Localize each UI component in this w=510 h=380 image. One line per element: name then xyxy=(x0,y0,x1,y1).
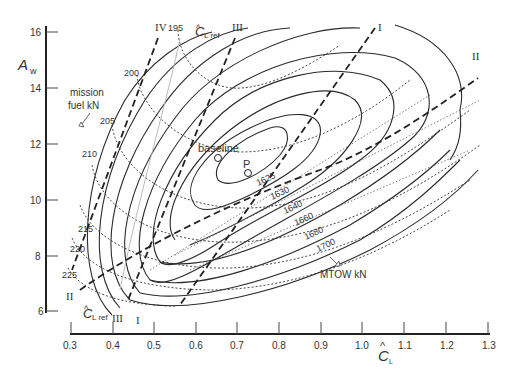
p-label: P xyxy=(243,158,250,170)
y-axis-label: A xyxy=(17,56,28,73)
mtow-1640: 1640 xyxy=(282,198,304,216)
fuel-215: 215 xyxy=(78,224,93,234)
x-tick-0.6: 0.6 xyxy=(189,340,203,351)
mtow-1700: 1700 xyxy=(315,236,337,254)
x-axis-label-sub: L xyxy=(389,358,393,365)
x-axis: 0.3 0.4 0.5 0.6 0.7 0.8 0.9 1.0 1.1 1.2 … xyxy=(63,322,496,365)
clref-label-top: ^ C L ref xyxy=(195,23,220,40)
y-axis: 16 14 12 10 8 6 A w xyxy=(17,26,58,317)
x-tick-0.3: 0.3 xyxy=(63,340,77,351)
label-IV: IV xyxy=(155,21,167,33)
x-tick-1.3: 1.3 xyxy=(482,340,496,351)
mtow-contours xyxy=(87,25,478,315)
fuel-195: 195 xyxy=(168,23,183,33)
mtow-annotation: MTOW kN xyxy=(320,257,366,280)
label-II-left: II xyxy=(66,290,74,302)
fuel-220: 220 xyxy=(70,244,85,254)
fuel-level-labels: 195 200 205 210 215 220 225 xyxy=(62,23,183,280)
x-tick-1.2: 1.2 xyxy=(440,340,454,351)
x-tick-0.5: 0.5 xyxy=(147,340,161,351)
mission-fuel-annotation: mission fuel kN xyxy=(68,87,104,127)
fuel-210: 210 xyxy=(82,149,97,159)
label-I-bottom: I xyxy=(136,314,140,326)
fuel-225: 225 xyxy=(62,270,77,280)
label-III-bottom: III xyxy=(112,312,123,324)
x-tick-0.8: 0.8 xyxy=(272,340,286,351)
x-tick-0.4: 0.4 xyxy=(106,340,120,351)
x-tick-0.9: 0.9 xyxy=(314,340,328,351)
baseline-label: baseline xyxy=(198,142,239,154)
x-tick-0.7: 0.7 xyxy=(230,340,244,351)
contour-chart: 16 14 12 10 8 6 A w 0.3 0.4 0.5 0.6 0.7 … xyxy=(0,0,510,380)
mission-fuel-label-2: fuel kN xyxy=(68,100,99,111)
label-II-right: II xyxy=(472,50,480,62)
mtow-label: MTOW kN xyxy=(320,269,366,280)
y-tick-12: 12 xyxy=(30,139,42,150)
x-tick-1.1: 1.1 xyxy=(398,340,412,351)
point-P: P xyxy=(243,158,252,177)
y-axis-label-sub: w xyxy=(29,66,37,76)
fuel-200: 200 xyxy=(124,68,139,78)
label-I-top: I xyxy=(378,21,382,33)
fuel-205: 205 xyxy=(100,116,115,126)
y-tick-6: 6 xyxy=(38,306,44,317)
mission-fuel-label-1: mission xyxy=(70,87,104,98)
x-tick-1.0: 1.0 xyxy=(355,340,369,351)
y-tick-8: 8 xyxy=(35,251,41,262)
label-III-top: III xyxy=(232,21,243,33)
svg-text:L ref: L ref xyxy=(204,31,220,40)
mtow-1630: 1630 xyxy=(269,184,291,202)
y-tick-14: 14 xyxy=(30,83,42,94)
svg-text:L ref: L ref xyxy=(92,313,108,322)
point-baseline: baseline xyxy=(198,142,239,162)
y-tick-10: 10 xyxy=(30,195,42,206)
y-tick-16: 16 xyxy=(30,27,42,38)
hat-glyph: ^ xyxy=(380,340,386,352)
